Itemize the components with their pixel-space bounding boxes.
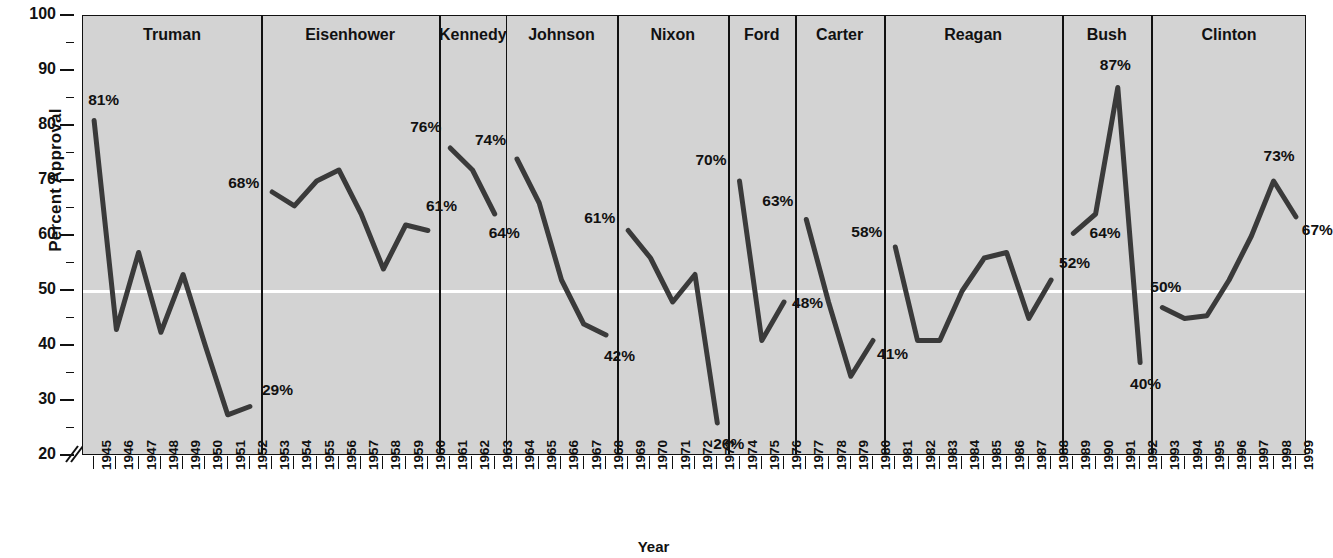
x-year-label-1972: 1972 — [700, 440, 715, 470]
x-year-label-1947: 1947 — [144, 440, 159, 470]
x-tick — [872, 456, 873, 469]
x-year-label-1961: 1961 — [455, 440, 470, 470]
x-tick — [271, 456, 272, 469]
x-tick — [828, 456, 829, 469]
x-tick — [449, 456, 450, 469]
value-label-eisenhower-1960: 61% — [426, 197, 457, 215]
x-tick — [1095, 456, 1096, 469]
x-tick — [382, 456, 383, 469]
x-axis-title: Year — [0, 538, 1307, 555]
x-year-label-1988: 1988 — [1056, 440, 1071, 470]
value-label-carter-1977: 63% — [762, 192, 793, 210]
x-tick — [1295, 456, 1296, 469]
y-tick-label: 90 — [12, 60, 56, 78]
x-year-label-1960: 1960 — [433, 440, 448, 470]
x-tick — [360, 456, 361, 469]
line-eisenhower — [272, 170, 428, 269]
x-tick — [227, 456, 228, 469]
x-tick — [471, 456, 472, 469]
x-tick — [1072, 456, 1073, 469]
x-year-label-1984: 1984 — [967, 440, 982, 470]
y-tick-major — [60, 344, 74, 346]
x-tick — [694, 456, 695, 469]
x-tick — [1273, 456, 1274, 469]
x-tick — [1117, 456, 1118, 469]
x-year-label-1957: 1957 — [366, 440, 381, 470]
x-year-label-1997: 1997 — [1256, 440, 1271, 470]
x-year-label-1958: 1958 — [388, 440, 403, 470]
x-year-label-1999: 1999 — [1301, 440, 1316, 470]
y-tick-major — [60, 14, 74, 16]
x-year-label-1948: 1948 — [166, 440, 181, 470]
x-tick — [1050, 456, 1051, 469]
x-year-label-1966: 1966 — [566, 440, 581, 470]
x-tick — [115, 456, 116, 469]
x-year-label-1954: 1954 — [299, 440, 314, 470]
y-tick-minor — [66, 262, 74, 263]
y-tick-label: 100 — [12, 5, 56, 23]
x-year-label-1965: 1965 — [544, 440, 559, 470]
x-year-label-1991: 1991 — [1123, 440, 1138, 470]
y-tick-minor — [66, 97, 74, 98]
x-tick — [1139, 456, 1140, 469]
y-tick-label: 80 — [12, 115, 56, 133]
x-tick — [538, 456, 539, 469]
x-year-label-1971: 1971 — [678, 440, 693, 470]
x-year-label-1978: 1978 — [834, 440, 849, 470]
x-year-label-1989: 1989 — [1078, 440, 1093, 470]
x-year-label-1964: 1964 — [522, 440, 537, 470]
x-tick — [138, 456, 139, 469]
value-label-reagan-1981: 58% — [851, 223, 882, 241]
x-year-label-1970: 1970 — [655, 440, 670, 470]
x-tick — [338, 456, 339, 469]
y-tick-major — [60, 399, 74, 401]
x-tick — [983, 456, 984, 469]
x-tick — [160, 456, 161, 469]
x-year-label-1983: 1983 — [945, 440, 960, 470]
x-year-label-1946: 1946 — [121, 440, 136, 470]
x-year-label-1977: 1977 — [811, 440, 826, 470]
value-label-carter-1980: 41% — [877, 345, 908, 363]
x-tick — [605, 456, 606, 469]
y-tick-minor — [66, 372, 74, 373]
value-label-clinton-1998: 73% — [1264, 147, 1295, 165]
x-tick — [1006, 456, 1007, 469]
x-year-label-1949: 1949 — [188, 440, 203, 470]
x-tick — [939, 456, 940, 469]
x-tick — [627, 456, 628, 469]
value-label-ford-1974: 70% — [696, 151, 727, 169]
x-tick — [761, 456, 762, 469]
axis-break-icon — [62, 444, 84, 466]
y-tick-minor — [66, 207, 74, 208]
y-tick-label: 30 — [12, 390, 56, 408]
x-year-label-1973: 1973 — [722, 440, 737, 470]
line-truman — [94, 121, 250, 415]
x-tick — [182, 456, 183, 469]
value-label-clinton-1999: 67% — [1302, 221, 1333, 239]
x-tick — [1184, 456, 1185, 469]
x-tick — [805, 456, 806, 469]
x-year-label-1995: 1995 — [1212, 440, 1227, 470]
y-tick-label: 40 — [12, 335, 56, 353]
y-tick-major — [60, 69, 74, 71]
x-year-label-1994: 1994 — [1190, 440, 1205, 470]
x-year-label-1976: 1976 — [789, 440, 804, 470]
x-tick — [204, 456, 205, 469]
value-label-johnson-1968: 42% — [604, 347, 635, 365]
x-year-label-1951: 1951 — [233, 440, 248, 470]
x-year-label-1993: 1993 — [1167, 440, 1182, 470]
y-tick-label: 50 — [12, 280, 56, 298]
x-tick — [783, 456, 784, 469]
x-tick — [405, 456, 406, 469]
x-year-label-1974: 1974 — [745, 440, 760, 470]
x-year-label-1986: 1986 — [1012, 440, 1027, 470]
value-label-bush-1991: 87% — [1100, 56, 1131, 74]
value-label-johnson-1964: 74% — [475, 131, 506, 149]
x-tick — [316, 456, 317, 469]
y-tick-minor — [66, 152, 74, 153]
line-reagan — [895, 247, 1051, 341]
x-tick — [249, 456, 250, 469]
x-year-label-1945: 1945 — [99, 440, 114, 470]
x-year-label-1980: 1980 — [878, 440, 893, 470]
